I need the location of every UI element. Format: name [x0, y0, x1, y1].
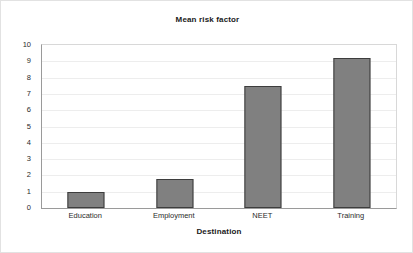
y-axis-tick-label: 2	[1, 170, 35, 179]
bar-education	[68, 192, 105, 208]
x-axis-tick-label: Training	[337, 211, 364, 220]
y-axis-tick-label: 5	[1, 121, 35, 130]
y-axis-tick-label: 6	[1, 105, 35, 114]
plot-area	[41, 44, 397, 209]
x-axis-tick-label: Employment	[153, 211, 195, 220]
bar-slot	[42, 45, 131, 208]
y-axis-tick-label: 3	[1, 154, 35, 163]
bar-neet	[245, 86, 282, 208]
bar-employment	[156, 179, 193, 208]
x-axis-title: Destination	[41, 227, 397, 236]
bar-training	[333, 58, 370, 208]
bar-slot	[308, 45, 397, 208]
y-axis-tick-label: 7	[1, 88, 35, 97]
y-axis-tick-label: 0	[1, 203, 35, 212]
bar-chart-figure: Mean risk factor 109876543210 EducationE…	[0, 0, 413, 253]
x-axis-tick-labels: EducationEmploymentNEETTraining	[41, 211, 397, 225]
bar-slot	[219, 45, 308, 208]
bar-slot	[131, 45, 220, 208]
chart-title: Mean risk factor	[1, 15, 413, 24]
y-axis-tick-label: 10	[1, 40, 35, 49]
y-axis-tick-labels: 109876543210	[1, 44, 35, 209]
y-axis-tick-label: 1	[1, 186, 35, 195]
x-axis-tick-label: NEET	[252, 211, 272, 220]
x-axis-tick-label: Education	[69, 211, 102, 220]
y-axis-tick-label: 9	[1, 56, 35, 65]
y-axis-tick-label: 8	[1, 72, 35, 81]
y-axis-tick-label: 4	[1, 137, 35, 146]
